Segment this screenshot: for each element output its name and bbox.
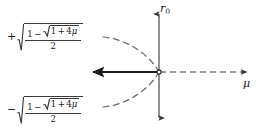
lower-inner-radicand: 1+4μ [50,98,80,110]
upper-inner-variable: μ [72,27,78,37]
lower-numerator-one: 1 [27,102,32,112]
r0-axis-label: r0 [160,3,170,15]
r0-axis-label-subscript: 0 [165,7,170,16]
lower-branch-fraction: 1−1+4μ 2 [25,98,81,124]
upper-branch-radicand: 1−1+4μ 2 [24,23,83,51]
lower-branch-sign: − [7,104,16,116]
lower-branch-outer-radical: 1−1+4μ 2 [17,96,83,124]
lower-branch-curve [103,75,158,108]
lower-branch-numerator: 1−1+4μ [25,98,81,113]
lower-branch-denominator: 2 [49,114,58,124]
lower-inner-variable: μ [72,100,78,110]
inner-radical-sign-icon [43,25,50,37]
upper-inner-radicand: 1+4μ [50,25,80,37]
upper-numerator-operator: − [33,29,43,39]
lower-branch-label: − 1−1+4μ 2 [7,96,83,124]
upper-branch-curve [103,37,158,70]
upper-branch-numerator: 1−1+4μ [25,25,81,40]
origin-marker [157,70,161,74]
lower-branch-radicand: 1−1+4μ 2 [24,96,83,124]
lower-inner-operator: + [56,100,66,110]
upper-branch-inner-radical: 1+4μ [43,25,80,37]
upper-numerator-one: 1 [27,29,32,39]
radical-sign-icon [17,23,24,51]
bifurcation-diagram: r0 μ + 1−1+4μ 2 − [0,0,259,132]
lower-branch-inner-radical: 1+4μ [43,98,80,110]
upper-branch-outer-radical: 1−1+4μ 2 [17,23,83,51]
lower-numerator-operator: − [33,102,43,112]
upper-branch-label: + 1−1+4μ 2 [7,23,83,51]
upper-inner-operator: + [56,27,66,37]
upper-branch-sign: + [7,31,16,43]
radical-sign-icon [17,96,24,124]
mu-axis-label: μ [243,78,250,89]
inner-radical-sign-icon [43,98,50,110]
upper-branch-denominator: 2 [49,41,58,51]
upper-branch-fraction: 1−1+4μ 2 [25,25,81,51]
